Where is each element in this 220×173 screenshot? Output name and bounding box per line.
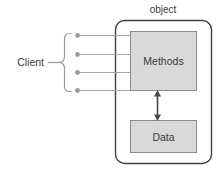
data-label: Data [152,131,174,143]
diagram-canvas: object Client Methods Data [0,0,220,173]
connector-dot [75,88,80,93]
connector-dot [75,52,80,57]
connector-dots [75,33,80,93]
object-client-diagram: object Client Methods Data [0,0,220,173]
connector-dot [75,33,80,38]
client-connector-lines [78,36,131,91]
methods-data-arrow [154,90,161,121]
methods-label: Methods [143,55,183,67]
connector-dot [75,70,80,75]
object-label: object [150,4,177,15]
client-label: Client [17,56,44,68]
client-brace [59,34,72,92]
